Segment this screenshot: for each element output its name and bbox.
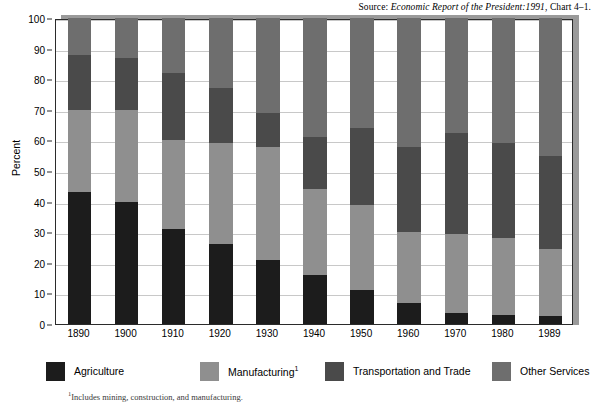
legend-swatch-other_services (492, 362, 511, 381)
bar-column-1940[interactable] (303, 20, 327, 324)
bar-segment-manufacturing-1940[interactable] (303, 189, 327, 275)
x-tick-label-1980: 1980 (491, 328, 513, 339)
x-axis: 1890190019101920193019401950196019701980… (55, 328, 573, 344)
bar-segment-agriculture-1940[interactable] (303, 275, 327, 324)
bar-segment-agriculture-1890[interactable] (68, 192, 92, 324)
legend-item-manufacturing[interactable]: Manufacturing1 (200, 360, 298, 382)
bar-segment-other-services-1950[interactable] (350, 18, 374, 128)
bar-segment-other-services-1970[interactable] (445, 18, 469, 133)
y-axis: 0102030405060708090100 (0, 19, 52, 325)
bar-segment-agriculture-1950[interactable] (350, 290, 374, 324)
bar-segment-transportation-and-trade-1980[interactable] (492, 143, 516, 238)
bar-segment-other-services-1920[interactable] (209, 18, 233, 88)
legend-label-agriculture: Agriculture (74, 365, 124, 377)
legend-item-other-services[interactable]: Other Services (492, 360, 589, 382)
y-tick-mark-0 (47, 325, 52, 326)
y-tick-mark-80 (47, 80, 52, 81)
legend-swatch-agriculture (46, 362, 65, 381)
bar-segment-agriculture-1989[interactable] (539, 316, 563, 324)
footnote-text: Includes mining, construction, and manuf… (71, 392, 243, 402)
source-note: Source: Economic Report of the President… (358, 2, 591, 12)
bar-segment-manufacturing-1900[interactable] (115, 110, 139, 202)
x-tick-label-1950: 1950 (350, 328, 372, 339)
legend-label-other_services: Other Services (520, 365, 589, 377)
bar-segment-transportation-and-trade-1970[interactable] (445, 133, 469, 234)
y-tick-mark-20 (47, 263, 52, 264)
bar-column-1980[interactable] (492, 20, 516, 324)
y-tick-label-40: 40 (34, 197, 45, 208)
bar-segment-manufacturing-1960[interactable] (397, 232, 421, 302)
bar-segment-agriculture-1920[interactable] (209, 244, 233, 324)
y-tick-label-20: 20 (34, 258, 45, 269)
bar-column-1900[interactable] (115, 20, 139, 324)
bar-segment-manufacturing-1930[interactable] (256, 147, 280, 260)
y-tick-mark-30 (47, 233, 52, 234)
legend-item-agriculture[interactable]: Agriculture (46, 360, 124, 382)
y-tick-mark-90 (47, 49, 52, 50)
bar-column-1950[interactable] (350, 20, 374, 324)
bar-segment-manufacturing-1970[interactable] (445, 234, 469, 314)
x-tick-label-1910: 1910 (162, 328, 184, 339)
bar-segment-agriculture-1960[interactable] (397, 303, 421, 324)
bar-segment-other-services-1890[interactable] (68, 18, 92, 55)
bar-segment-other-services-1940[interactable] (303, 18, 327, 137)
y-tick-label-50: 50 (34, 167, 45, 178)
bar-column-1970[interactable] (445, 20, 469, 324)
y-tick-mark-70 (47, 110, 52, 111)
bar-segment-agriculture-1970[interactable] (445, 313, 469, 324)
bar-column-1960[interactable] (397, 20, 421, 324)
chart-legend: AgricultureManufacturing1Transportation … (0, 360, 597, 384)
bar-segment-other-services-1960[interactable] (397, 18, 421, 147)
y-tick-label-10: 10 (34, 289, 45, 300)
y-tick-mark-40 (47, 202, 52, 203)
bar-segment-manufacturing-1950[interactable] (350, 205, 374, 291)
legend-item-transportation-and-trade[interactable]: Transportation and Trade (325, 360, 471, 382)
bar-segment-transportation-and-trade-1910[interactable] (162, 73, 186, 140)
bar-segment-manufacturing-1890[interactable] (68, 110, 92, 193)
bar-segment-manufacturing-1920[interactable] (209, 143, 233, 244)
bar-segment-transportation-and-trade-1930[interactable] (256, 113, 280, 147)
bar-segment-agriculture-1910[interactable] (162, 229, 186, 324)
bar-segment-other-services-1930[interactable] (256, 18, 280, 113)
legend-swatch-manufacturing (200, 362, 219, 381)
y-tick-label-60: 60 (34, 136, 45, 147)
bar-segment-other-services-1900[interactable] (115, 18, 139, 58)
y-tick-label-70: 70 (34, 105, 45, 116)
bar-column-1920[interactable] (209, 20, 233, 324)
x-tick-label-1970: 1970 (444, 328, 466, 339)
bar-segment-transportation-and-trade-1920[interactable] (209, 88, 233, 143)
bar-column-1890[interactable] (68, 20, 92, 324)
y-tick-label-90: 90 (34, 44, 45, 55)
y-tick-mark-60 (47, 141, 52, 142)
bar-segment-manufacturing-1980[interactable] (492, 238, 516, 315)
x-tick-label-1989: 1989 (538, 328, 560, 339)
bar-column-1930[interactable] (256, 20, 280, 324)
bar-column-1910[interactable] (162, 20, 186, 324)
bar-segment-other-services-1910[interactable] (162, 18, 186, 73)
y-tick-label-30: 30 (34, 228, 45, 239)
bar-segment-agriculture-1980[interactable] (492, 315, 516, 324)
source-note-title: Economic Report of the President:1991 (391, 2, 545, 12)
bar-column-1989[interactable] (539, 20, 563, 324)
bar-segment-transportation-and-trade-1900[interactable] (115, 58, 139, 110)
bar-segment-agriculture-1930[interactable] (256, 260, 280, 324)
bar-segment-other-services-1980[interactable] (492, 18, 516, 143)
bar-segment-transportation-and-trade-1989[interactable] (539, 156, 563, 249)
bar-segment-manufacturing-1989[interactable] (539, 249, 563, 316)
bar-segment-transportation-and-trade-1950[interactable] (350, 128, 374, 205)
bar-segment-other-services-1989[interactable] (539, 18, 563, 156)
x-tick-label-1930: 1930 (256, 328, 278, 339)
bar-segment-transportation-and-trade-1890[interactable] (68, 55, 92, 110)
bar-segment-agriculture-1900[interactable] (115, 202, 139, 324)
plot-area (55, 19, 573, 325)
legend-label-manufacturing: Manufacturing1 (228, 365, 298, 378)
bar-segment-manufacturing-1910[interactable] (162, 140, 186, 229)
x-tick-label-1960: 1960 (397, 328, 419, 339)
y-tick-label-80: 80 (34, 75, 45, 86)
bars-layer (56, 20, 572, 324)
bar-segment-transportation-and-trade-1940[interactable] (303, 137, 327, 189)
source-note-prefix: Source: (358, 2, 390, 12)
y-tick-mark-100 (47, 19, 52, 20)
bar-segment-transportation-and-trade-1960[interactable] (397, 147, 421, 233)
